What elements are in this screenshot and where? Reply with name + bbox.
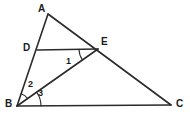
segment-be bbox=[17, 49, 98, 106]
segment-ab bbox=[17, 14, 48, 106]
figure-canvas bbox=[0, 0, 190, 118]
segment-bc bbox=[17, 105, 171, 106]
angle-label-3: 3 bbox=[38, 89, 43, 98]
geometry-figure: A B C D E 1 2 3 bbox=[0, 0, 190, 118]
segment-de bbox=[37, 49, 98, 50]
vertex-label-a: A bbox=[38, 4, 45, 14]
vertex-label-d: D bbox=[23, 43, 30, 53]
angle-arc-1 bbox=[79, 49, 82, 60]
angle-arc-2 bbox=[21, 94, 27, 99]
vertex-label-c: C bbox=[176, 99, 183, 109]
angle-label-2: 2 bbox=[28, 80, 33, 89]
angle-label-1: 1 bbox=[66, 57, 71, 66]
vertex-label-e: E bbox=[101, 37, 108, 47]
vertex-label-b: B bbox=[5, 99, 12, 109]
